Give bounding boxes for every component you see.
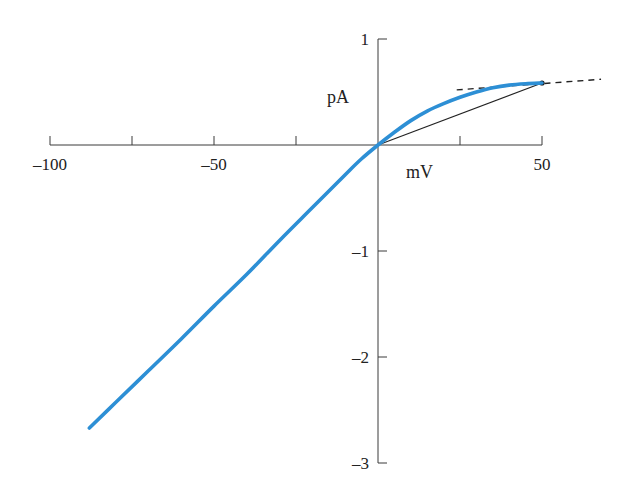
- y-tick-label: –3: [351, 454, 369, 473]
- x-tick-label: 50: [534, 155, 551, 174]
- y-tick-label: 1: [361, 30, 370, 49]
- y-tick-label: –1: [351, 242, 369, 261]
- series: [89, 83, 542, 428]
- x-tick-label: –100: [32, 155, 67, 174]
- iv-curve: [89, 83, 542, 428]
- x-tick-label: –50: [200, 155, 227, 174]
- chord-line: [378, 83, 542, 145]
- iv-chart: –100–50501–1–2–3 mV pA: [0, 0, 626, 498]
- y-axis-label: pA: [327, 87, 349, 107]
- x-axis-label: mV: [406, 162, 433, 182]
- y-tick-label: –2: [351, 348, 369, 367]
